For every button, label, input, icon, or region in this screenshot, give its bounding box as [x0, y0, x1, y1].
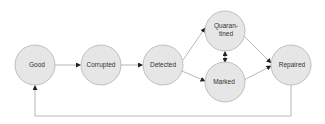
node-marked[interactable]: Marked [205, 62, 245, 102]
edge-quarantined-to-repaired [244, 36, 271, 63]
edge-repaired-to-good [35, 85, 291, 116]
edge-detected-to-marked [182, 71, 205, 81]
node-quarantined-label-line1: Quaran- [214, 22, 238, 30]
node-quarantined-label-line2: tined [219, 30, 233, 37]
node-quarantined[interactable]: Quaran- tined [205, 11, 245, 51]
node-corrupted-label: Corrupted [87, 61, 116, 69]
node-good-label: Good [29, 61, 45, 68]
node-repaired[interactable]: Repaired [271, 45, 311, 85]
node-repaired-label: Repaired [279, 61, 306, 69]
edge-detected-to-quarantined [183, 28, 205, 60]
node-marked-label: Marked [213, 78, 235, 85]
edge-marked-to-repaired [244, 66, 271, 80]
node-detected[interactable]: Detected [143, 45, 183, 85]
node-good[interactable]: Good [15, 45, 55, 85]
node-corrupted[interactable]: Corrupted [81, 45, 121, 85]
node-detected-label: Detected [150, 61, 176, 68]
state-diagram: Good Corrupted Detected Quaran- tined Ma… [0, 0, 325, 124]
